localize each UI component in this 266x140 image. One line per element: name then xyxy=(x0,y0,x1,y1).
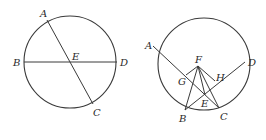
segment-fe xyxy=(198,66,205,95)
segment-fb xyxy=(185,66,198,110)
right-label-c: C xyxy=(220,111,228,122)
geometry-figure: A B C D E A B C D E F G H xyxy=(0,0,266,140)
left-label-a: A xyxy=(39,8,47,19)
left-label-b: B xyxy=(12,57,20,68)
segment-fh xyxy=(198,66,215,81)
right-label-d: D xyxy=(247,57,256,68)
left-label-d: D xyxy=(119,57,128,68)
right-label-e: E xyxy=(200,98,209,109)
right-chord-ac xyxy=(153,46,219,108)
left-circle-figure: A B C D E xyxy=(12,8,128,118)
right-label-h: H xyxy=(215,72,225,83)
right-label-f: F xyxy=(194,54,203,65)
right-label-b: B xyxy=(178,113,186,124)
right-circle-figure: A B C D E F G H xyxy=(144,18,256,124)
left-label-c: C xyxy=(93,107,101,118)
left-label-e: E xyxy=(71,51,80,62)
right-label-g: G xyxy=(178,76,186,87)
right-label-a: A xyxy=(144,40,152,51)
